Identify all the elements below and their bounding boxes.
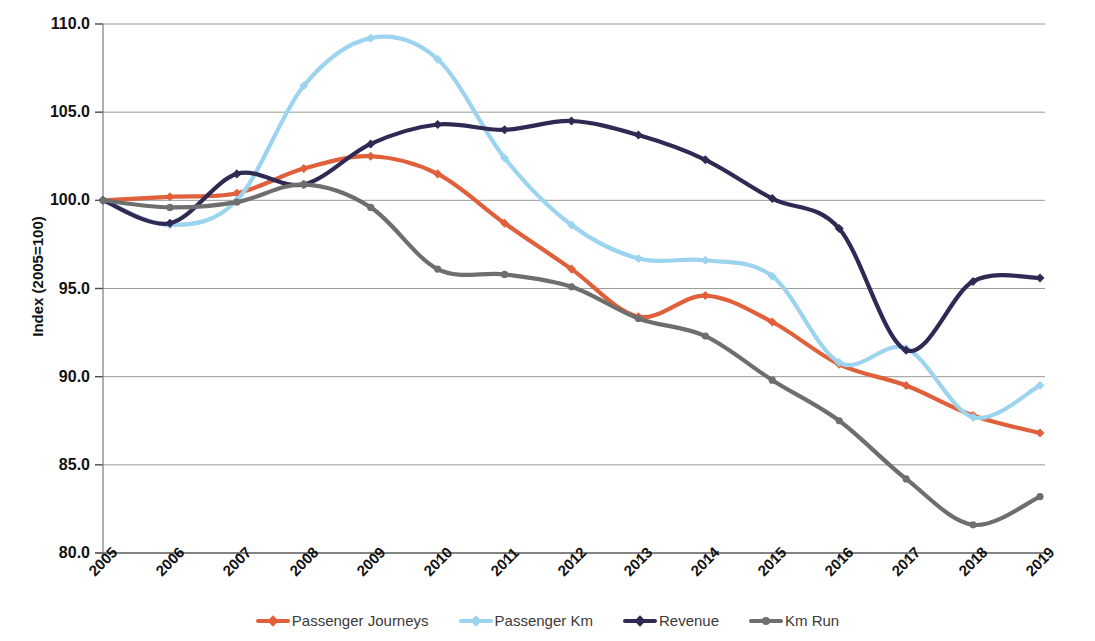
legend-label: Revenue [659, 612, 719, 629]
data-point-marker [634, 131, 643, 140]
legend-swatch-icon [623, 613, 657, 629]
series-km-run [99, 181, 1043, 529]
series-line [103, 184, 1040, 525]
data-point-marker [1036, 493, 1043, 500]
data-point-marker [634, 254, 643, 263]
legend-label: Passenger Journeys [292, 612, 429, 629]
data-point-marker [500, 125, 509, 134]
legend-label: Km Run [785, 612, 839, 629]
data-point-marker [769, 377, 776, 384]
series-passenger-km [98, 34, 1044, 422]
data-point-marker [903, 475, 910, 482]
data-point-marker [635, 315, 642, 322]
data-point-marker [969, 521, 976, 528]
series-revenue [98, 116, 1044, 354]
data-point-marker [701, 291, 710, 300]
legend-swatch-icon [459, 613, 493, 629]
legend-swatch-icon [256, 613, 290, 629]
data-point-marker [701, 256, 710, 265]
legend-item[interactable]: Km Run [749, 612, 839, 629]
x-axis-ticks [95, 553, 1045, 561]
data-point-marker [1035, 429, 1044, 438]
legend-item[interactable]: Passenger Km [459, 612, 593, 629]
data-point-marker [501, 271, 508, 278]
legend-label: Passenger Km [495, 612, 593, 629]
legend-item[interactable]: Revenue [623, 612, 719, 629]
data-point-marker [99, 197, 106, 204]
line-chart: Index (2005=100) 110.0105.0100.095.090.0… [0, 0, 1095, 641]
data-point-marker [166, 204, 173, 211]
data-point-marker [366, 152, 375, 161]
data-point-marker [702, 333, 709, 340]
data-point-marker [836, 417, 843, 424]
data-point-marker [568, 283, 575, 290]
plot-area [0, 0, 1095, 641]
legend-swatch-icon [749, 613, 783, 629]
data-point-marker [366, 34, 375, 43]
data-point-marker [433, 120, 442, 129]
data-point-marker [300, 181, 307, 188]
data-point-marker [367, 204, 374, 211]
series-layer [98, 34, 1044, 529]
data-point-marker [434, 266, 441, 273]
series-line [103, 121, 1040, 351]
chart-legend: Passenger JourneysPassenger KmRevenueKm … [0, 612, 1095, 629]
data-point-marker [233, 199, 240, 206]
data-point-marker [1035, 273, 1044, 282]
data-point-marker [567, 116, 576, 125]
data-point-marker [299, 164, 308, 173]
series-line [103, 156, 1040, 433]
legend-item[interactable]: Passenger Journeys [256, 612, 429, 629]
